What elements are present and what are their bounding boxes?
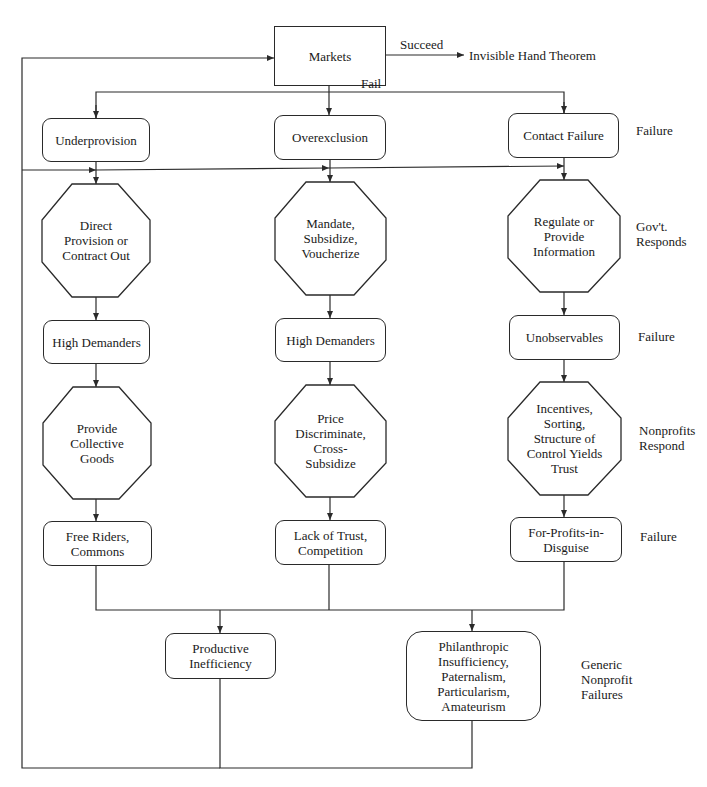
overexclusion-node: Overexclusion [274,115,386,160]
high-demanders-col1-node: High Demanders [43,320,150,364]
nonprofit-response-col1: Provide Collective Goods [43,387,151,499]
flowchart-canvas: Markets Succeed Invisible Hand Theorem F… [0,0,707,787]
for-profits-in-disguise-node: For-Profits-in- Disguise [510,517,622,562]
row-label-failure-1: Failure [636,123,673,138]
invisible-hand-theorem-label: Invisible Hand Theorem [469,48,596,63]
free-riders-node: Free Riders, Commons [43,521,152,566]
high-demanders-col1-label: High Demanders [52,335,140,350]
contact-failure-label: Contact Failure [523,128,604,143]
row-label-gov-responds: Gov't. Responds [636,219,687,249]
markets-label: Markets [309,49,352,64]
row-label-failure-3: Failure [640,529,677,544]
underprovision-label: Underprovision [55,133,137,148]
overexclusion-label: Overexclusion [292,130,368,145]
fail-edge-label: Fail [361,76,381,91]
row-label-nonprofits-respond: Nonprofits Respond [639,423,695,453]
row-label-generic-nonprofit-failures: Generic Nonprofit Failures [581,657,632,702]
lack-of-trust-node: Lack of Trust, Competition [275,520,386,565]
nonprofit-response-col3: Incentives, Sorting, Structure of Contro… [508,382,621,495]
underprovision-node: Underprovision [42,118,150,162]
gov-response-col1: Direct Provision or Contract Out [42,184,150,297]
philanthropic-insufficiency-node: Philanthropic Insufficiency, Paternalism… [406,631,541,721]
unobservables-node: Unobservables [509,315,620,360]
contact-failure-node: Contact Failure [508,113,619,158]
row-label-failure-2: Failure [638,329,675,344]
gov-response-col2: Mandate, Subsidize, Voucherize [275,182,386,295]
high-demanders-col2-node: High Demanders [275,318,386,362]
productive-inefficiency-node: Productive Inefficiency [165,633,276,679]
gov-response-col3: Regulate or Provide Information [508,180,620,292]
unobservables-label: Unobservables [526,330,603,345]
nonprofit-response-col2: Price Discriminate, Cross- Subsidize [275,385,386,497]
succeed-edge-label: Succeed [400,37,443,52]
high-demanders-col2-label: High Demanders [286,333,374,348]
